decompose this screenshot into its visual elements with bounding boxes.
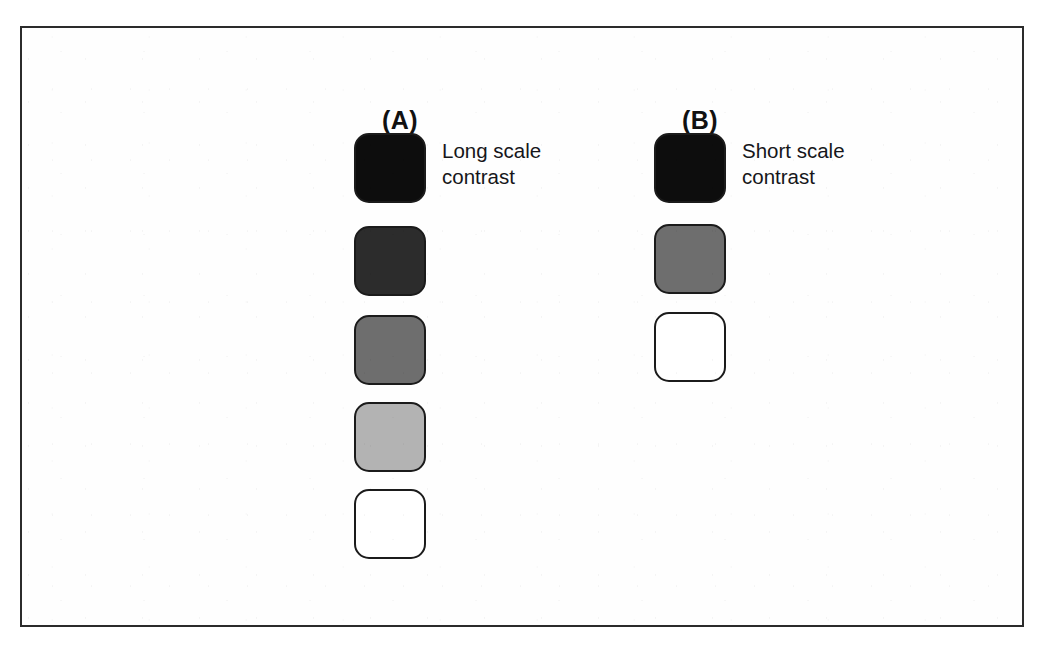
panel-caption-b: Short scale contrast	[742, 138, 845, 190]
swatch-a-4	[354, 402, 426, 472]
panel-label-a: (A)	[354, 108, 446, 133]
swatch-a-3	[354, 315, 426, 385]
swatch-a-5	[354, 489, 426, 559]
figure-root: (A) Long scale contrast (B) Short scale …	[0, 0, 1046, 651]
figure-frame: (A) Long scale contrast (B) Short scale …	[20, 26, 1024, 627]
panel-caption-a: Long scale contrast	[442, 138, 541, 190]
swatch-b-1	[654, 133, 726, 203]
scan-noise-overlay	[22, 28, 1022, 625]
swatch-b-2	[654, 224, 726, 294]
panel-label-b: (B)	[654, 108, 746, 133]
swatch-a-2	[354, 226, 426, 296]
swatch-b-3	[654, 312, 726, 382]
swatch-a-1	[354, 133, 426, 203]
